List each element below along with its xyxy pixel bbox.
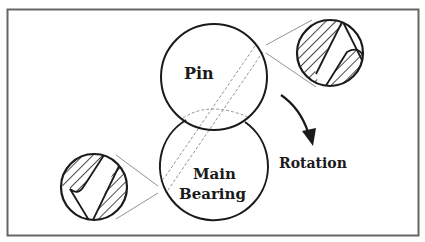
crankshaft-oil-passage-diagram: Pin Main Bearing Rotation (0, 0, 425, 242)
pin-circle (161, 24, 267, 130)
rotation-arrow-icon (281, 95, 316, 146)
main-bearing-label-line2: Bearing (179, 185, 246, 203)
rotation-label: Rotation (279, 155, 347, 171)
pin-label: Pin (184, 64, 214, 83)
left-detail-magnifier (60, 150, 130, 225)
main-bearing-label-line1: Main (193, 165, 236, 183)
